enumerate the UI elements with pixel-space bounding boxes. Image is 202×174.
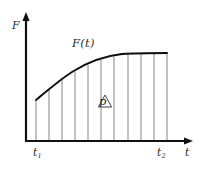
x-axis (25, 138, 193, 145)
t2-tick-label: t2 (157, 147, 165, 158)
impulse-momentum-figure: F F(t) p t1 t2 t (0, 0, 202, 174)
t2-subscript: 2 (161, 152, 165, 160)
force-time-curve (36, 53, 167, 100)
area-annotation-label: p (98, 96, 106, 108)
t1-tick-label: t1 (33, 147, 41, 158)
figure-canvas (0, 0, 202, 174)
x-axis-arrow-icon (184, 138, 193, 145)
y-axis-label: F (12, 20, 20, 31)
curve-label: F(t) (72, 38, 95, 50)
t1-subscript: 1 (37, 152, 41, 160)
y-axis-arrow-icon (22, 12, 29, 21)
y-axis (22, 12, 29, 141)
area-quantity-text: p (99, 94, 106, 108)
x-axis-label: t (185, 147, 189, 158)
